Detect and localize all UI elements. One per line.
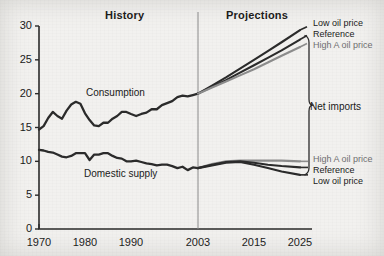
series-line — [198, 40, 300, 94]
y-tick-label: 5 — [10, 189, 32, 200]
history-header: History — [105, 10, 144, 21]
legend-lower-high-a-oil-price: High A oil price — [313, 155, 373, 164]
chart-series-group — [39, 30, 300, 175]
y-tick-label: 20 — [10, 88, 32, 99]
y-tick-label: 10 — [10, 155, 32, 166]
y-tick-label: 30 — [10, 20, 32, 31]
legend-lower-low-oil-price: Low oil price — [313, 177, 363, 186]
series-line — [198, 47, 300, 94]
x-tick-label: 1990 — [111, 237, 151, 248]
y-tick-label: 25 — [10, 54, 32, 65]
x-tick-label: 1970 — [19, 237, 59, 248]
consumption-label: Consumption — [86, 88, 145, 98]
x-tick-label: 2025 — [280, 237, 320, 248]
x-tick-label: 1980 — [65, 237, 105, 248]
legend-connector-marks — [300, 27, 308, 175]
y-tick-label: 0 — [10, 223, 32, 234]
legend-upper-reference: Reference — [313, 30, 355, 39]
legend-upper-high-a-oil-price: High A oil price — [313, 41, 373, 50]
x-tick-label: 2015 — [234, 237, 274, 248]
domestic-supply-label: Domestic supply — [84, 169, 157, 179]
legend-lower-reference: Reference — [313, 166, 355, 175]
chart-figure: 051015202530 197019801990200320152025 Hi… — [0, 0, 384, 256]
y-tick-label: 15 — [10, 122, 32, 133]
net-imports-label: Net imports — [310, 102, 361, 112]
legend-upper-low-oil-price: Low oil price — [313, 19, 363, 28]
series-line — [198, 30, 300, 94]
series-line — [39, 94, 198, 130]
projections-header: Projections — [226, 10, 288, 21]
x-tick-label: 2003 — [178, 237, 218, 248]
